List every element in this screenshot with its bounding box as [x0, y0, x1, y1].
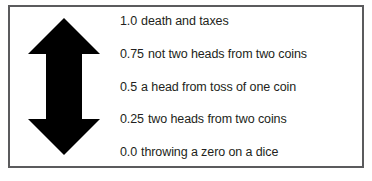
- list-item: 0.25two heads from two coins: [120, 112, 356, 127]
- list-item: 0.0throwing a zero on a dice: [120, 145, 356, 160]
- probability-scale-figure: 1.0death and taxes 0.75not two heads fro…: [0, 0, 372, 181]
- probability-description: a head from toss of one coin: [141, 80, 296, 94]
- probability-value: 0.25: [120, 112, 144, 126]
- probability-description: two heads from two coins: [148, 112, 287, 126]
- list-item: 0.5a head from toss of one coin: [120, 80, 356, 95]
- double-headed-vertical-arrow-icon: [10, 7, 114, 166]
- probability-description: not two heads from two coins: [148, 47, 307, 61]
- probability-description: throwing a zero on a dice: [141, 145, 278, 159]
- list-item: 1.0death and taxes: [120, 14, 356, 29]
- probability-label-list: 1.0death and taxes 0.75not two heads fro…: [120, 14, 356, 160]
- probability-value: 0.5: [120, 80, 137, 94]
- probability-value: 0.75: [120, 47, 144, 61]
- arrow-shape: [28, 18, 100, 155]
- probability-value: 1.0: [120, 14, 137, 28]
- list-item: 0.75not two heads from two coins: [120, 47, 356, 62]
- probability-description: death and taxes: [141, 14, 228, 28]
- probability-value: 0.0: [120, 145, 137, 159]
